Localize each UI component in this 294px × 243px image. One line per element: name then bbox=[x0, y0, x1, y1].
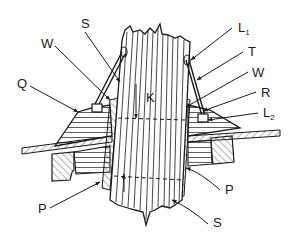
left-carling-block bbox=[52, 152, 74, 181]
mast-partner-diagram: S W Q K L1 T W R L2 P P S bbox=[0, 0, 294, 243]
label-P-right: P bbox=[225, 182, 234, 197]
label-Q: Q bbox=[17, 76, 27, 91]
label-K: K bbox=[146, 90, 155, 105]
label-S-bottom: S bbox=[213, 215, 222, 230]
label-L2: L2 bbox=[263, 105, 275, 122]
label-R: R bbox=[261, 85, 270, 100]
label-W-left: W bbox=[41, 36, 54, 51]
label-L1: L1 bbox=[238, 20, 250, 37]
label-T: T bbox=[248, 44, 256, 59]
label-W-right: W bbox=[252, 65, 265, 80]
label-P-left: P bbox=[38, 201, 47, 216]
right-carling-block bbox=[211, 136, 234, 164]
label-S-top: S bbox=[81, 16, 90, 31]
mast bbox=[110, 24, 190, 225]
